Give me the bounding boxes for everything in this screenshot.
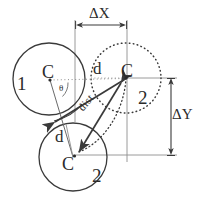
delta-x-dimension — [76, 21, 127, 29]
circle-1-center-label: C — [42, 63, 54, 81]
radius-d-solid — [66, 124, 73, 157]
radius-d-dotted-label: d — [93, 60, 102, 77]
circle-2-solid-center-label: C — [62, 155, 74, 173]
horizontal-reference-line — [50, 79, 124, 81]
delta-x-label: ΔX — [89, 6, 109, 21]
theta-arc — [63, 83, 69, 97]
figure-canvas: ΔX ΔY 1 C θ d C 2 d C 2 dist — [0, 0, 200, 205]
radius-d-solid-label: d — [55, 128, 64, 145]
circle-2-solid-index-label: 2 — [92, 166, 102, 185]
theta-label: θ — [59, 84, 63, 93]
dimension-extension-lines — [73, 20, 177, 162]
delta-y-label: ΔY — [172, 107, 192, 122]
circle-2-dotted-index-label: 2 — [138, 88, 148, 107]
circle-2-dotted-center-label: C — [121, 62, 133, 80]
circle-1-index-label: 1 — [17, 74, 27, 93]
